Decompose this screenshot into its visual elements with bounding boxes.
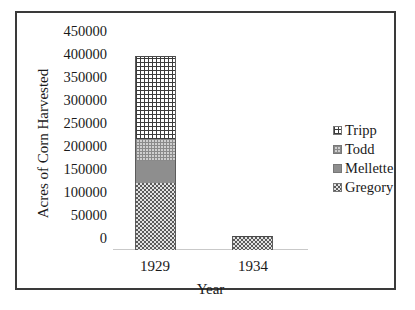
- y-tick-label: 0: [45, 231, 107, 245]
- bar-segment-tripp-1929[interactable]: [135, 56, 176, 139]
- y-tick-label: 250000: [45, 116, 107, 130]
- x-tick-label-1929: 1929: [115, 258, 195, 275]
- legend-swatch-todd-icon: [333, 145, 342, 154]
- bar-segment-todd-1929[interactable]: [135, 139, 176, 161]
- chart-frame: Acres of Corn Harvested 450000 400000 35…: [15, 11, 396, 290]
- legend-swatch-tripp-icon: [333, 126, 342, 135]
- legend-label-mellette: Mellette: [345, 161, 393, 176]
- legend-item-mellette[interactable]: Mellette: [333, 159, 411, 178]
- legend-item-todd[interactable]: Todd: [333, 140, 411, 159]
- x-axis-title: Year: [113, 281, 308, 298]
- bar-segment-mellette-1929[interactable]: [135, 161, 176, 183]
- bar-segment-gregory-1929[interactable]: [135, 183, 176, 250]
- bar-segment-gregory-1934[interactable]: [232, 236, 273, 250]
- y-tick-label: 50000: [45, 208, 107, 222]
- legend-label-tripp: Tripp: [345, 123, 377, 138]
- y-tick-label: 400000: [45, 47, 107, 61]
- y-tick-label: 300000: [45, 93, 107, 107]
- x-tick-label-1934: 1934: [213, 258, 293, 275]
- y-tick-label: 100000: [45, 185, 107, 199]
- y-tick-label: 350000: [45, 70, 107, 84]
- y-tick-label: 450000: [45, 24, 107, 38]
- legend-item-gregory[interactable]: Gregory: [333, 178, 411, 197]
- legend-label-gregory: Gregory: [345, 180, 393, 195]
- legend-label-todd: Todd: [345, 142, 375, 157]
- legend-swatch-gregory-icon: [333, 183, 342, 192]
- y-tick-label: 200000: [45, 139, 107, 153]
- chart-container: Acres of Corn Harvested 450000 400000 35…: [0, 0, 415, 310]
- y-tick-label: 150000: [45, 162, 107, 176]
- x-axis-tick-labels: 1929 1934: [113, 258, 308, 278]
- legend-swatch-mellette-icon: [333, 164, 342, 173]
- legend-item-tripp[interactable]: Tripp: [333, 121, 411, 140]
- chart-legend: Tripp Todd Mellette Gregory: [333, 121, 411, 197]
- stacked-bar-1934[interactable]: [232, 236, 273, 250]
- y-axis-tick-labels: 450000 400000 350000 300000 250000 20000…: [45, 24, 107, 252]
- plot-area: [113, 35, 308, 250]
- stacked-bar-1929[interactable]: [135, 56, 176, 250]
